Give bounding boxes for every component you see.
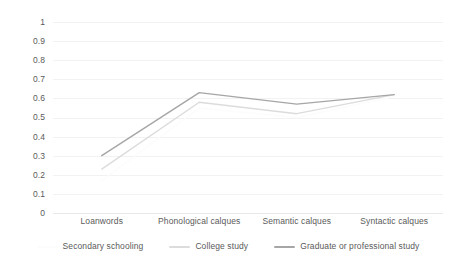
chart-legend: Secondary schooling College study Gradua… [0, 241, 456, 252]
series-line-graduate-or-professional-study [102, 93, 395, 156]
y-tick-label: 0.7 [5, 75, 45, 84]
legend-item-secondary-schooling: Secondary schooling [37, 241, 144, 252]
series-lines [53, 22, 443, 213]
y-tick-label: 0.4 [5, 133, 45, 142]
legend-item-graduate-or-professional-study: Graduate or professional study [274, 241, 419, 252]
y-tick-label: 0.9 [5, 37, 45, 46]
x-axis-category-labels: Loanwords Phonological calques Semantic … [53, 215, 443, 231]
legend-swatch-icon [274, 246, 295, 248]
x-axis-line [53, 213, 443, 214]
y-tick-label: 0.3 [5, 152, 45, 161]
plot-area [53, 22, 443, 213]
line-chart: 1 0.9 0.8 0.7 0.6 0.5 0.4 0.3 0.2 0.1 0 [0, 0, 456, 266]
y-tick-label: 0.6 [5, 94, 45, 103]
y-tick-label: 0.5 [5, 113, 45, 122]
y-tick-label: 0.1 [5, 190, 45, 199]
legend-item-label: Secondary schooling [63, 241, 144, 252]
legend-swatch-icon [37, 246, 58, 248]
x-tick-label-syntactic-calques: Syntactic calques [346, 215, 444, 231]
x-tick-label-loanwords: Loanwords [53, 215, 151, 231]
y-tick-label: 0.2 [5, 171, 45, 180]
legend-item-label: Graduate or professional study [300, 241, 419, 252]
legend-swatch-icon [169, 246, 190, 248]
y-tick-label: 0 [5, 209, 45, 218]
legend-item-label: College study [195, 241, 248, 252]
y-tick-label: 0.8 [5, 56, 45, 65]
legend-item-college-study: College study [169, 241, 248, 252]
x-tick-label-phonological-calques: Phonological calques [151, 215, 249, 231]
x-tick-label-semantic-calques: Semantic calques [248, 215, 346, 231]
y-tick-label: 1 [5, 18, 45, 27]
